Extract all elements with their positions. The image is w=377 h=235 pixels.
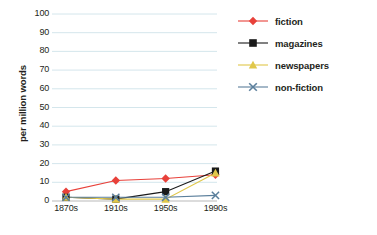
legend-label: fiction (268, 16, 303, 27)
y-axis-tick-labels: 0102030405060708090100 (0, 14, 49, 201)
legend-item-magazines[interactable]: magazines (238, 32, 377, 54)
y-tick-label: 40 (3, 120, 49, 130)
plot-svg (52, 14, 217, 201)
y-tick-label: 50 (3, 102, 49, 112)
y-tick-label: 60 (3, 83, 49, 93)
legend: fictionmagazinesnewspapersnon-fiction (238, 10, 377, 98)
y-tick-label: 100 (3, 8, 49, 18)
y-tick-label: 20 (3, 158, 49, 168)
legend-label: magazines (268, 38, 323, 49)
y-tick-label: 90 (3, 27, 49, 37)
plot-area (52, 14, 217, 201)
data-point-fiction (112, 176, 120, 184)
legend-item-non-fiction[interactable]: non-fiction (238, 76, 377, 98)
legend-label: non-fiction (268, 82, 323, 93)
legend-label: newspapers (268, 60, 329, 71)
series-line-fiction (66, 175, 215, 192)
legend-marker-triangle-icon (238, 58, 268, 72)
legend-marker-square-icon (238, 36, 268, 50)
x-tick-label: 1990s (185, 203, 245, 213)
legend-item-fiction[interactable]: fiction (238, 10, 377, 32)
x-axis-tick-labels: 1870s1910s1950s1990s (52, 203, 227, 219)
y-tick-label: 80 (3, 45, 49, 55)
legend-marker-diamond-icon (238, 14, 268, 28)
line-chart: per million words 0102030405060708090100… (0, 0, 377, 235)
legend-item-newspapers[interactable]: newspapers (238, 54, 377, 76)
y-tick-label: 70 (3, 64, 49, 74)
y-tick-label: 30 (3, 139, 49, 149)
y-tick-label: 10 (3, 176, 49, 186)
data-point-fiction (161, 174, 169, 182)
legend-marker-cross-icon (238, 80, 268, 94)
